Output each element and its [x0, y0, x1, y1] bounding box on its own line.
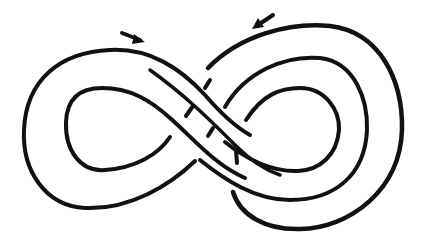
left-lobe: [24, 50, 250, 208]
right-lobe: [200, 25, 402, 229]
arrow-left-icon: [252, 15, 273, 29]
figure-eight-band-diagram: [0, 0, 424, 241]
dash-1: [186, 106, 193, 116]
left-inner-curve: [66, 88, 245, 178]
arrow-right-icon: [122, 33, 145, 44]
dash-4: [205, 80, 210, 88]
dash-3: [236, 151, 237, 163]
right-middle-curve: [200, 58, 367, 200]
left-outer-curve: [24, 50, 250, 208]
dash-2: [208, 128, 213, 136]
